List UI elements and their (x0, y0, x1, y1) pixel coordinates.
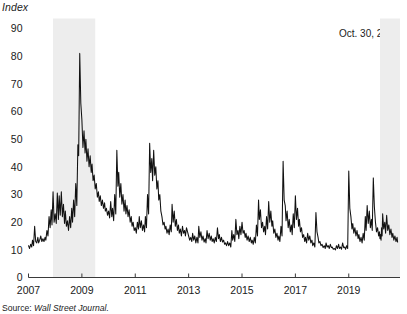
y-tick-label: 70 (11, 78, 23, 90)
y-tick-label: 80 (11, 50, 23, 62)
y-tick-label: 90 (11, 22, 23, 34)
great-recession-band (53, 19, 95, 278)
y-tick-label: 50 (11, 133, 23, 145)
x-tick-label: 2011 (124, 284, 147, 296)
y-tick-label: 40 (11, 161, 23, 173)
y-tick-label: 10 (11, 244, 23, 256)
y-tick-label: 0 (17, 271, 23, 283)
chart-container: Index Oct. 30, 2020 0102030405060708090 … (0, 0, 407, 314)
x-tick-label: 2015 (230, 284, 254, 296)
y-tick-label: 60 (11, 105, 23, 117)
x-tick-label: 2019 (337, 284, 361, 296)
source-note: Source: Wall Street Journal. (2, 303, 109, 313)
source-name: Wall Street Journal. (34, 303, 109, 313)
y-tick-label: 30 (11, 188, 23, 200)
x-tick-label: 2007 (17, 284, 41, 296)
x-tick-label: 2017 (284, 284, 308, 296)
y-tick-label: 20 (11, 216, 23, 228)
x-tick-label: 2013 (177, 284, 201, 296)
x-tick-label: 2009 (70, 284, 94, 296)
source-label: Source: (2, 303, 32, 313)
line-chart-plot: 0102030405060708090 20072009201120132015… (0, 0, 407, 314)
y-axis-ticks-group: 0102030405060708090 (11, 22, 23, 283)
